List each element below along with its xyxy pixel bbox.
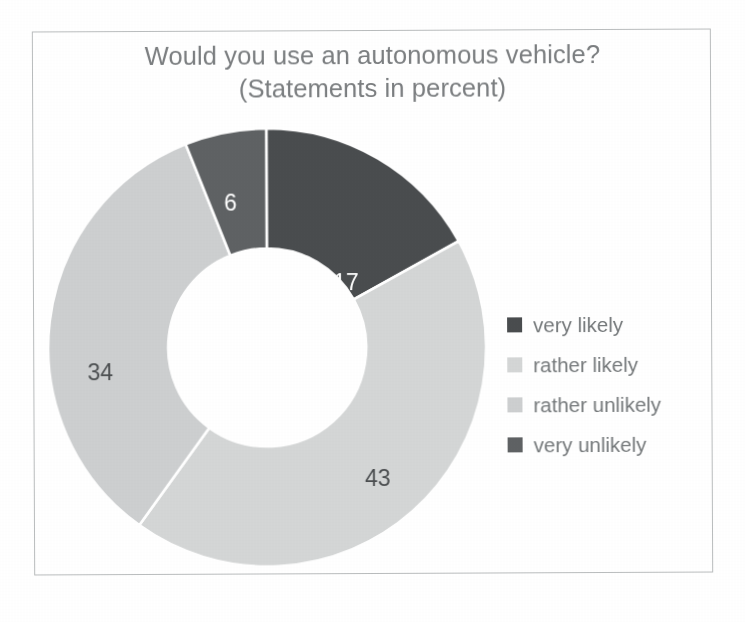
legend-item-label: rather likely [533,353,638,374]
legend-swatch-very-likely [507,317,522,332]
chart-frame: Would you use an autonomous vehicle? (St… [32,29,713,576]
legend-item[interactable]: rather likely [507,344,707,385]
donut-chart: 1743346 [46,127,488,569]
legend-item-label: very unlikely [534,433,647,454]
legend-swatch-very-unlikely [508,437,523,452]
legend-swatch-rather-likely [507,357,522,372]
donut-hole [168,248,367,447]
legend-item-label: rather unlikely [533,393,661,415]
chart-title: Would you use an autonomous vehicle? (St… [33,38,712,107]
chart-legend: very likelyrather likelyrather unlikelyv… [507,304,708,465]
scanned-figure: Would you use an autonomous vehicle? (St… [0,0,745,622]
chart-title-line-1: Would you use an autonomous vehicle? [145,40,600,70]
legend-item-label: very likely [533,313,623,334]
legend-swatch-rather-unlikely [507,397,522,412]
legend-item[interactable]: rather unlikely [507,384,707,425]
chart-title-line-2: (Statements in percent) [33,71,712,107]
legend-item[interactable]: very unlikely [508,424,708,465]
legend-item[interactable]: very likely [507,304,707,345]
